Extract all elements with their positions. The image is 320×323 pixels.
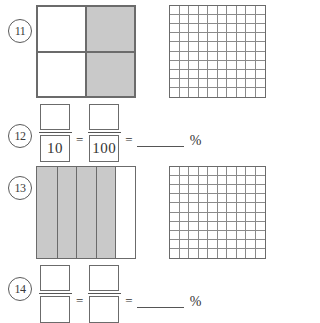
hundred-grid-13-cell-r6c4[interactable] — [199, 213, 209, 222]
hundred-grid-11-cell-r9c5[interactable] — [208, 79, 218, 88]
hundred-grid-11-cell-r10c10[interactable] — [256, 88, 266, 97]
hundred-grid-11-cell-r4c2[interactable] — [180, 33, 190, 42]
hundred-grid-13-cell-r2c5[interactable] — [208, 176, 218, 185]
hundred-grid-11-cell-r9c8[interactable] — [237, 79, 247, 88]
hundred-grid-11-cell-r2c6[interactable] — [218, 15, 228, 24]
hundred-grid-11-cell-r7c3[interactable] — [189, 61, 199, 70]
hundred-grid-11-cell-r5c8[interactable] — [237, 42, 247, 51]
hundred-grid-13-cell-r7c9[interactable] — [246, 222, 256, 231]
hundred-grid-11-cell-r8c10[interactable] — [256, 70, 266, 79]
halves-square-part-4[interactable] — [86, 52, 135, 98]
hundred-grid-11-cell-r1c2[interactable] — [180, 6, 190, 15]
hundred-grid-13-cell-r3c5[interactable] — [208, 185, 218, 194]
hundred-grid-13-cell-r5c2[interactable] — [180, 203, 190, 212]
hundred-grid-13-cell-r6c9[interactable] — [246, 213, 256, 222]
hundred-grid-13-cell-r6c1[interactable] — [170, 213, 180, 222]
hundred-grid-11-cell-r2c10[interactable] — [256, 15, 266, 24]
hundred-grid-11-cell-r3c4[interactable] — [199, 24, 209, 33]
hundred-grid-11-cell-r8c6[interactable] — [218, 70, 228, 79]
hundred-grid-13-cell-r3c3[interactable] — [189, 185, 199, 194]
numerator-input-tenths-12[interactable] — [40, 104, 70, 130]
hundred-grid-13-cell-r7c6[interactable] — [218, 222, 228, 231]
hundred-grid-11-cell-r3c5[interactable] — [208, 24, 218, 33]
hundred-grid-13-cell-r9c6[interactable] — [218, 240, 228, 249]
hundred-grid-13-cell-r10c10[interactable] — [256, 249, 266, 258]
hundred-grid-11-cell-r6c5[interactable] — [208, 52, 218, 61]
hundred-grid-13-cell-r3c8[interactable] — [237, 185, 247, 194]
hundred-grid-13-cell-r7c8[interactable] — [237, 222, 247, 231]
fraction-model-fifths-strips[interactable] — [36, 166, 136, 259]
hundred-grid-11-cell-r7c4[interactable] — [199, 61, 209, 70]
hundred-grid-11-cell-r6c7[interactable] — [227, 52, 237, 61]
hundred-grid-13-cell-r1c7[interactable] — [227, 167, 237, 176]
hundred-grid-11-cell-r8c2[interactable] — [180, 70, 190, 79]
hundred-grid-problem-13[interactable] — [169, 166, 266, 259]
hundred-grid-11-cell-r6c4[interactable] — [199, 52, 209, 61]
numerator-input-tenths-14[interactable] — [40, 265, 70, 291]
hundred-grid-13-cell-r8c5[interactable] — [208, 231, 218, 240]
hundred-grid-11-cell-r5c9[interactable] — [246, 42, 256, 51]
hundred-grid-13-cell-r7c3[interactable] — [189, 222, 199, 231]
hundred-grid-13-cell-r3c7[interactable] — [227, 185, 237, 194]
hundred-grid-11-cell-r9c6[interactable] — [218, 79, 228, 88]
hundred-grid-13-cell-r10c4[interactable] — [199, 249, 209, 258]
hundred-grid-11-cell-r3c8[interactable] — [237, 24, 247, 33]
hundred-grid-13-cell-r10c9[interactable] — [246, 249, 256, 258]
hundred-grid-11-cell-r2c1[interactable] — [170, 15, 180, 24]
hundred-grid-11-cell-r10c9[interactable] — [246, 88, 256, 97]
hundred-grid-problem-11[interactable] — [169, 5, 266, 98]
hundred-grid-11-cell-r2c2[interactable] — [180, 15, 190, 24]
hundred-grid-13-cell-r7c1[interactable] — [170, 222, 180, 231]
hundred-grid-11-cell-r6c6[interactable] — [218, 52, 228, 61]
hundred-grid-11-cell-r10c2[interactable] — [180, 88, 190, 97]
hundred-grid-11-cell-r3c3[interactable] — [189, 24, 199, 33]
hundred-grid-13-cell-r9c2[interactable] — [180, 240, 190, 249]
hundred-grid-11-cell-r7c1[interactable] — [170, 61, 180, 70]
hundred-grid-11-cell-r2c5[interactable] — [208, 15, 218, 24]
hundred-grid-13-cell-r3c1[interactable] — [170, 185, 180, 194]
hundred-grid-11-cell-r7c2[interactable] — [180, 61, 190, 70]
hundred-grid-11-cell-r10c3[interactable] — [189, 88, 199, 97]
hundred-grid-11-cell-r6c1[interactable] — [170, 52, 180, 61]
hundred-grid-13-cell-r1c2[interactable] — [180, 167, 190, 176]
hundred-grid-13-cell-r10c8[interactable] — [237, 249, 247, 258]
hundred-grid-11-cell-r7c6[interactable] — [218, 61, 228, 70]
hundred-grid-11-cell-r8c9[interactable] — [246, 70, 256, 79]
hundred-grid-11-cell-r3c6[interactable] — [218, 24, 228, 33]
hundred-grid-11-cell-r9c2[interactable] — [180, 79, 190, 88]
hundred-grid-13-cell-r8c4[interactable] — [199, 231, 209, 240]
hundred-grid-11-cell-r9c9[interactable] — [246, 79, 256, 88]
hundred-grid-11-cell-r2c4[interactable] — [199, 15, 209, 24]
hundred-grid-11-cell-r5c10[interactable] — [256, 42, 266, 51]
hundred-grid-11-cell-r6c2[interactable] — [180, 52, 190, 61]
hundred-grid-11-cell-r1c10[interactable] — [256, 6, 266, 15]
hundred-grid-13-cell-r4c5[interactable] — [208, 194, 218, 203]
hundred-grid-11-cell-r8c4[interactable] — [199, 70, 209, 79]
hundred-grid-13-cell-r9c3[interactable] — [189, 240, 199, 249]
halves-square-part-3[interactable] — [37, 52, 86, 98]
hundred-grid-11-cell-r4c9[interactable] — [246, 33, 256, 42]
hundred-grid-13-cell-r3c9[interactable] — [246, 185, 256, 194]
hundred-grid-13-cell-r4c9[interactable] — [246, 194, 256, 203]
hundred-grid-13-cell-r6c7[interactable] — [227, 213, 237, 222]
hundred-grid-13-cell-r4c7[interactable] — [227, 194, 237, 203]
hundred-grid-13-cell-r2c7[interactable] — [227, 176, 237, 185]
hundred-grid-13-cell-r5c10[interactable] — [256, 203, 266, 212]
hundred-grid-13-cell-r6c5[interactable] — [208, 213, 218, 222]
hundred-grid-13-cell-r2c1[interactable] — [170, 176, 180, 185]
fifths-strip-part-5[interactable] — [115, 167, 135, 258]
percent-answer-blank-14[interactable] — [137, 307, 184, 308]
hundred-grid-11-cell-r10c8[interactable] — [237, 88, 247, 97]
hundred-grid-11-cell-r9c1[interactable] — [170, 79, 180, 88]
hundred-grid-11-cell-r3c2[interactable] — [180, 24, 190, 33]
hundred-grid-11-cell-r1c7[interactable] — [227, 6, 237, 15]
hundred-grid-11-cell-r7c5[interactable] — [208, 61, 218, 70]
hundred-grid-13-cell-r9c9[interactable] — [246, 240, 256, 249]
fifths-strip-part-4[interactable] — [96, 167, 116, 258]
hundred-grid-11-cell-r5c1[interactable] — [170, 42, 180, 51]
hundred-grid-13-cell-r6c8[interactable] — [237, 213, 247, 222]
hundred-grid-13-cell-r9c8[interactable] — [237, 240, 247, 249]
hundred-grid-11-cell-r5c4[interactable] — [199, 42, 209, 51]
hundred-grid-11-cell-r4c8[interactable] — [237, 33, 247, 42]
hundred-grid-13-cell-r1c6[interactable] — [218, 167, 228, 176]
